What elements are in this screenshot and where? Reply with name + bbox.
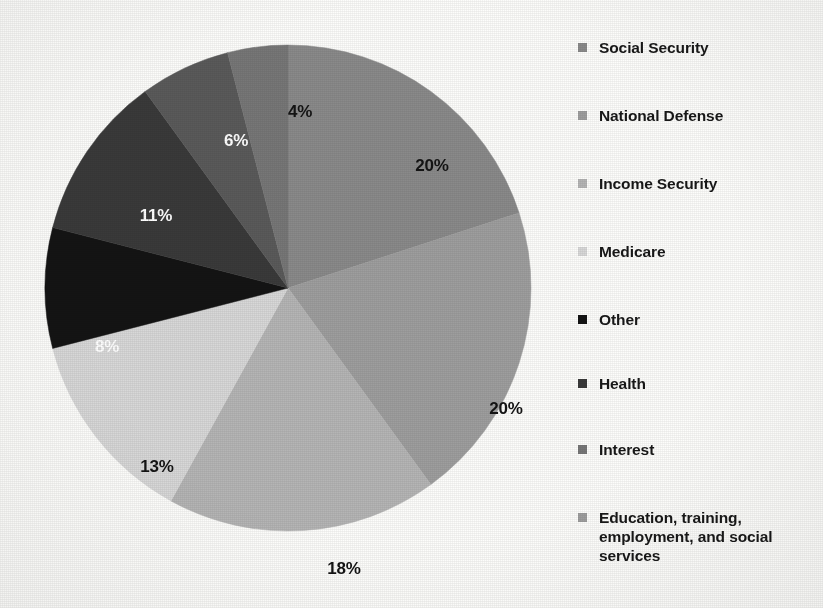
legend-item-label: National Defense [599,106,723,125]
legend-item[interactable]: Health [578,374,816,393]
legend-swatch-icon [578,445,587,454]
legend-swatch-icon [578,179,587,188]
slice-value-label: 18% [327,559,360,579]
chart-area: 20%20%18%13%8%11%6%4% [0,0,560,608]
legend-item-label: Health [599,374,646,393]
pie-chart: 20%20%18%13%8%11%6%4% [44,44,532,532]
legend-swatch-icon [578,379,587,388]
legend-item-label: Income Security [599,174,717,193]
legend-swatch-icon [578,247,587,256]
legend-item[interactable]: Education, training, employment, and soc… [578,508,816,565]
legend-swatch-icon [578,43,587,52]
legend-item-label: Social Security [599,38,709,57]
legend-item[interactable]: Interest [578,440,816,459]
legend-item-label: Other [599,310,640,329]
legend-swatch-icon [578,111,587,120]
legend-item[interactable]: National Defense [578,106,816,125]
legend-item-label: Medicare [599,242,665,261]
legend-item-label: Interest [599,440,654,459]
legend-item-label: Education, training, employment, and soc… [599,508,816,565]
legend-item[interactable]: Medicare [578,242,816,261]
legend-item[interactable]: Other [578,310,816,329]
legend-swatch-icon [578,315,587,324]
legend-item[interactable]: Social Security [578,38,816,57]
legend-swatch-icon [578,513,587,522]
pie-chart-page: 20%20%18%13%8%11%6%4% Social SecurityNat… [0,0,823,608]
pie-svg [44,44,532,532]
legend-item[interactable]: Income Security [578,174,816,193]
